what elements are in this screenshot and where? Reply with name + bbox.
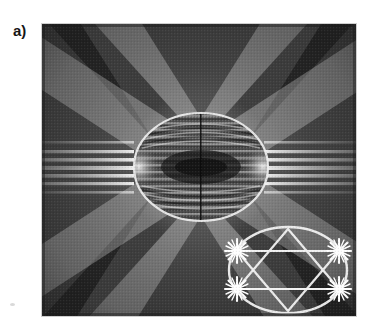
figure-panel: a)	[0, 0, 368, 334]
film-grain	[42, 24, 356, 316]
paper-speck	[10, 303, 15, 306]
pattern-layers	[42, 24, 356, 316]
diffraction-pattern-svg	[42, 24, 356, 316]
diffraction-pattern-image	[42, 24, 356, 316]
panel-label: a)	[13, 23, 26, 39]
